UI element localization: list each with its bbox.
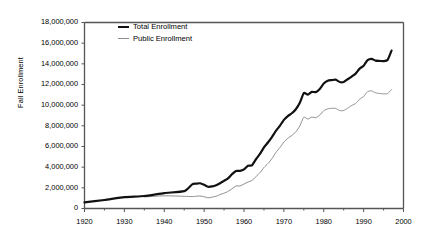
x-axis-tick-label: 2000 <box>384 217 424 226</box>
x-axis-tick-label: 1930 <box>104 217 144 226</box>
enrollment-line-chart: Fall Enrollment 02,000,0004,000,0006,000… <box>0 0 424 252</box>
x-axis-tick-label: 1990 <box>344 217 384 226</box>
x-axis-tick-label: 1950 <box>184 217 224 226</box>
x-axis-tick-label: 1980 <box>304 217 344 226</box>
x-axis-tick-label: 1920 <box>65 217 105 226</box>
x-axis-tick-label: 1940 <box>144 217 184 226</box>
plot-area <box>0 0 424 252</box>
series-line-total-enrollment <box>85 51 392 203</box>
x-axis-tick-label: 1970 <box>264 217 304 226</box>
x-axis-tick-label: 1960 <box>224 217 264 226</box>
